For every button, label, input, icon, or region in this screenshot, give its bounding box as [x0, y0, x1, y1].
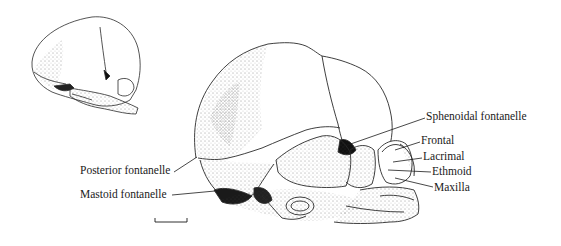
leader-mastoid [172, 191, 215, 195]
label-posterior-fontanelle: Posterior fontanelle [80, 165, 170, 177]
label-mastoid-fontanelle: Mastoid fontanelle [80, 189, 167, 201]
label-lacrimal: Lacrimal [423, 151, 465, 163]
label-sphenoidal-fontanelle: Sphenoidal fontanelle [426, 111, 527, 123]
leader-posterior [174, 157, 197, 172]
label-ethmoid: Ethmoid [432, 166, 472, 178]
skull-drawings [0, 0, 561, 246]
fetal-skull-figure: Sphenoidal fontanelle Frontal Lacrimal E… [0, 0, 561, 246]
label-maxilla: Maxilla [434, 182, 470, 194]
label-frontal: Frontal [421, 135, 454, 147]
small-skull-illustration [32, 17, 140, 114]
main-skull-illustration [195, 43, 419, 224]
scale-bar [155, 218, 187, 222]
